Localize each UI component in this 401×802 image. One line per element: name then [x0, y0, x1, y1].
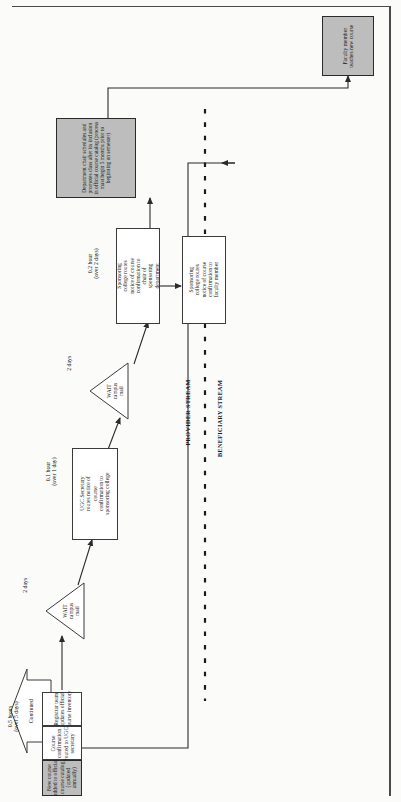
box-stack-cell-confirmation[interactable]: Course confirmation routed to UGC secret…: [42, 726, 82, 760]
duration-label-3: 0.1 hour (over 1 day): [40, 440, 62, 502]
duration-line-2: (over 1 day): [51, 457, 57, 485]
box-label: Sponsoring college routes notice of cour…: [116, 255, 160, 297]
duration-line-1: 0.1 hour: [45, 461, 51, 480]
duration-label-2: 2 days: [14, 560, 36, 610]
box-label: Sponsoring college routes notice of cour…: [188, 259, 219, 301]
duration-label-4: 2 days: [58, 338, 80, 388]
box-label: Faculty member teaches new course: [342, 21, 355, 71]
box-faculty-teaches[interactable]: Faculty member teaches new course: [322, 16, 374, 76]
duration-line-1: 0.5 hours: [7, 705, 13, 727]
duration-line-1: 0.2 hour: [87, 253, 93, 272]
wait-node-1[interactable]: WAIT campus mail: [44, 582, 86, 640]
label-provider-stream: PROVIDER STREAM: [178, 352, 198, 472]
duration-label-1: 0.5 hours (over 5 days): [2, 686, 24, 746]
duration-line-2: (over 2 days): [93, 248, 99, 279]
box-college-routes-to-chair[interactable]: Sponsoring college routes notice of cour…: [116, 228, 160, 324]
page-rule-top: [12, 6, 390, 7]
wait-node-2[interactable]: WAIT campus mail: [88, 362, 130, 420]
duration-label-5: 0.2 hour (over 2 days): [82, 232, 104, 294]
box-label: Registrar team updates official course i…: [53, 690, 72, 728]
duration-line-2: (over 5 days): [13, 701, 19, 732]
continued-label: Continued: [28, 699, 34, 723]
duration-line-1: 2 days: [66, 356, 72, 371]
box-college-routes-to-faculty[interactable]: Sponsoring college routes notice of cour…: [182, 236, 226, 324]
box-label: UGC Secretary routes notice of course co…: [79, 472, 110, 516]
diagram-canvas: Continued 0.5 hours (over 5 days) 2 days…: [0, 0, 401, 802]
box-label: New course added to official course cata…: [46, 759, 77, 797]
box-department-chair[interactable]: Department chair schedules and promotes …: [56, 118, 136, 198]
page-rule-right: [389, 6, 391, 796]
box-stack-cell-new-course[interactable]: New course added to official course cata…: [42, 760, 82, 796]
duration-line-1: 2 days: [22, 578, 28, 593]
label-beneficiary-stream: BENEFICIARY STREAM: [211, 352, 231, 484]
box-ugc-secretary[interactable]: UGC Secretary routes notice of course co…: [72, 448, 118, 540]
box-label: Course confirmation routed to UGC secret…: [50, 724, 75, 762]
box-stack-cell-registrar[interactable]: Registrar team updates official course i…: [42, 692, 82, 726]
box-label: Department chair schedules and promotes …: [81, 120, 111, 196]
